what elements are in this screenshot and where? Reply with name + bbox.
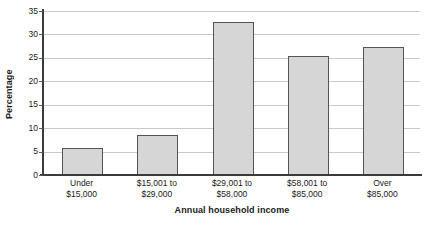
y-axis-tick-mark <box>39 58 43 59</box>
x-axis-tick-label-group: Under$15,000$15,001 to$29,000$29,001 to$… <box>44 178 420 204</box>
x-axis-tick-label-line: $29,001 to <box>194 178 269 189</box>
x-axis-tick-label-line: $85,000 <box>270 189 345 200</box>
bar <box>213 22 254 175</box>
bar-chart-figure: Percentage 05101520253035 Under$15,000$1… <box>0 0 429 225</box>
y-axis-tick-mark <box>39 175 43 176</box>
y-axis-tick-mark <box>39 128 43 129</box>
x-axis-tick-label-line: $58,000 <box>194 189 269 200</box>
x-axis-tick-label-line: $29,000 <box>119 189 194 200</box>
y-axis-tick-label: 25 <box>8 53 38 62</box>
y-axis-tick-mark <box>39 81 43 82</box>
bar <box>137 135 178 175</box>
bar <box>288 56 329 175</box>
x-axis-tick-label: $29,001 to$58,000 <box>194 178 269 199</box>
y-axis-tick-mark <box>39 152 43 153</box>
y-axis-tick-label: 20 <box>8 77 38 86</box>
x-axis-tick-label: Over$85,000 <box>345 178 420 199</box>
y-axis-tick-mark <box>39 34 43 35</box>
y-axis-tick-label-group: 05101520253035 <box>4 0 38 225</box>
bar <box>62 148 103 175</box>
x-axis-tick-label-line: Over <box>345 178 420 189</box>
x-axis-line <box>40 174 422 176</box>
x-axis-tick-label-line: $85,000 <box>345 189 420 200</box>
bar <box>363 47 404 175</box>
x-axis-tick-label-line: $58,001 to <box>270 178 345 189</box>
x-axis-title: Annual household income <box>44 205 420 215</box>
y-axis-tick-label: 10 <box>8 124 38 133</box>
y-axis-tick-mark <box>39 105 43 106</box>
x-axis-tick-label-line: $15,001 to <box>119 178 194 189</box>
x-axis-tick-label: $58,001 to$85,000 <box>270 178 345 199</box>
x-axis-tick-label-line: $15,000 <box>44 189 119 200</box>
y-axis-tick-label: 0 <box>8 171 38 180</box>
x-axis-tick-label: Under$15,000 <box>44 178 119 199</box>
y-axis-tick-label: 35 <box>8 7 38 16</box>
y-axis-tick-mark <box>39 11 43 12</box>
y-axis-tick-label: 15 <box>8 100 38 109</box>
gridline <box>44 11 420 12</box>
y-axis-tick-label: 5 <box>8 147 38 156</box>
y-axis-tick-label: 30 <box>8 30 38 39</box>
plot-area <box>44 11 420 175</box>
x-axis-tick-label: $15,001 to$29,000 <box>119 178 194 199</box>
x-axis-tick-label-line: Under <box>44 178 119 189</box>
